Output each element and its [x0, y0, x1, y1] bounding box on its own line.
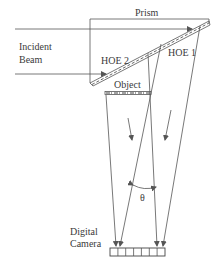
digital-camera-sensor: [110, 248, 165, 256]
camera-label-line2: Camera: [70, 238, 102, 249]
object-plate: [105, 92, 151, 95]
incident-beam-label-line2: Beam: [19, 54, 43, 65]
hoe1-label: HOE 1: [168, 47, 196, 58]
camera-label-line1: Digital: [70, 226, 98, 237]
holographic-setup-diagram: Prism Incident Beam HOE 2 HOE 1 Object θ…: [0, 0, 218, 269]
object-beam-rays: [106, 44, 161, 246]
direction-arrows: [128, 110, 171, 140]
object-label: Object: [114, 79, 141, 90]
hoe2-label: HOE 2: [101, 55, 129, 66]
prism-label: Prism: [135, 7, 159, 18]
theta-label: θ: [140, 192, 145, 203]
reference-beam-rays: [148, 26, 200, 246]
theta-angle-arc: [133, 185, 156, 189]
incident-beam-label-line1: Incident: [19, 41, 52, 52]
